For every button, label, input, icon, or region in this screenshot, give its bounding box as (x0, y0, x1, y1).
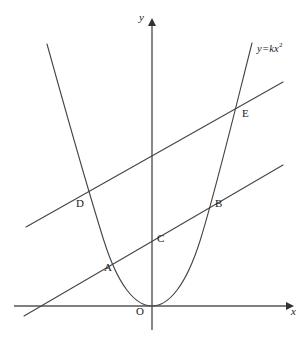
parabola-curve (47, 43, 252, 306)
point-label-a: A (104, 262, 112, 273)
y-axis-arrow-icon (148, 18, 156, 26)
lower-secant-line (24, 165, 283, 316)
point-label-e: E (242, 108, 249, 119)
point-label-c: C (157, 233, 164, 244)
x-axis-label: x (291, 306, 296, 317)
origin-label: O (136, 306, 144, 317)
point-label-d: D (76, 198, 84, 209)
y-axis-label: y (139, 12, 144, 23)
point-label-b: B (215, 198, 222, 209)
upper-secant-line (26, 82, 283, 227)
curve-equation-label: y=kx2 (257, 42, 283, 54)
equation-exponent: 2 (279, 41, 283, 49)
geometry-figure: y x O y=kx2 A B C D E (0, 0, 307, 342)
